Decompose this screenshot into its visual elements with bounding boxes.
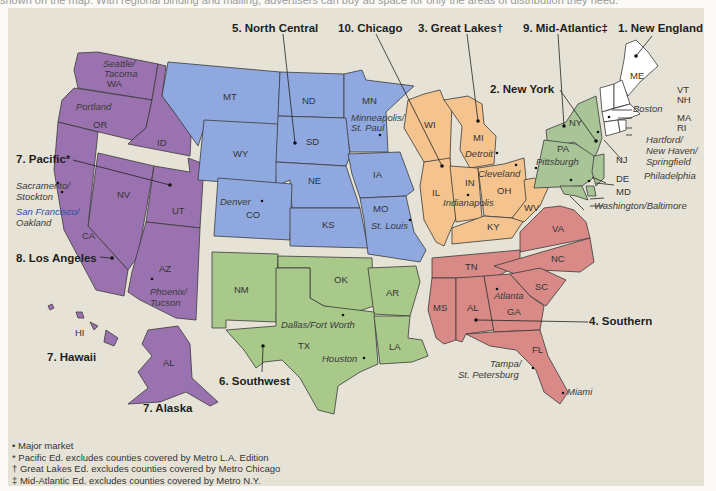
region-label-southern: 4. Southern xyxy=(589,315,652,327)
label-va: VA xyxy=(552,223,565,234)
label-fl: FL xyxy=(532,344,543,355)
region-label-great-lakes: 3. Great Lakes† xyxy=(418,22,503,34)
label-ri: RI xyxy=(677,122,687,133)
label-il: IL xyxy=(432,187,440,198)
label-in: IN xyxy=(465,177,475,188)
city-stlouis: St. Louis xyxy=(371,220,408,231)
city-phoenix-1: Phoenix/ xyxy=(150,286,188,297)
label-ca: CA xyxy=(82,230,96,241)
map-legend: • Major market * Pacific Ed. excludes co… xyxy=(12,440,280,486)
label-ks: KS xyxy=(322,219,335,230)
region-label-alaska: 7. Alaska xyxy=(143,402,193,414)
label-ak: AL xyxy=(163,357,175,368)
label-nh: NH xyxy=(677,94,691,105)
city-sacramento-1: Sacramento/ xyxy=(16,180,71,191)
label-wy: WY xyxy=(233,148,249,159)
legend-item-mid-atlantic-note: ‡ Mid-Atlantic Ed. excludes counties cov… xyxy=(12,475,280,487)
state-de xyxy=(586,186,596,196)
label-al: AL xyxy=(467,302,479,313)
city-washington: Washington/Baltimore xyxy=(594,200,687,211)
regional-editions-map: WA OR ID NV UT CA AZ HI AL MT ND MN WY S… xyxy=(0,0,716,491)
city-atlanta: Atlanta xyxy=(493,290,524,301)
label-wv: WV xyxy=(524,202,540,213)
label-ar: AR xyxy=(386,287,399,298)
label-id: ID xyxy=(157,137,167,148)
state-hi xyxy=(48,304,118,346)
city-portland: Portland xyxy=(76,101,112,112)
label-or: OR xyxy=(93,119,107,130)
city-seattle-2: Tacoma xyxy=(104,68,137,79)
city-cleveland: Cleveland xyxy=(478,168,521,179)
city-hartford-1: Hartford/ xyxy=(646,134,684,145)
city-dallas: Dallas/Fort Worth xyxy=(281,319,355,330)
region-label-southwest: 6. Southwest xyxy=(219,375,290,387)
label-md: MD xyxy=(616,186,631,197)
city-boston: Boston xyxy=(633,103,663,114)
label-de: DE xyxy=(616,173,629,184)
label-mi: MI xyxy=(473,132,484,143)
state-vt xyxy=(600,84,614,112)
label-ne: NE xyxy=(308,175,321,186)
city-denver: Denver xyxy=(220,196,251,207)
region-southwest[interactable] xyxy=(212,252,428,414)
city-pittsburgh: Pittsburgh xyxy=(536,156,579,167)
label-sc: SC xyxy=(535,281,548,292)
region-label-hawaii: 7. Hawaii xyxy=(47,351,96,363)
label-mo: MO xyxy=(373,203,388,214)
region-label-new-england: 1. New England xyxy=(618,22,703,34)
region-mid-atlantic[interactable] xyxy=(534,96,604,200)
label-nm: NM xyxy=(234,284,249,295)
state-mn xyxy=(344,70,414,152)
city-tampa-1: Tampa/ xyxy=(490,358,523,369)
label-oh: OH xyxy=(497,185,511,196)
label-nj: NJ xyxy=(616,154,628,165)
label-tn: TN xyxy=(465,261,478,272)
label-nv: NV xyxy=(117,189,131,200)
label-nd: ND xyxy=(302,95,316,106)
city-sacramento-2: Stockton xyxy=(16,191,53,202)
city-minneapolis-2: St. Paul xyxy=(351,122,385,133)
label-tx: TX xyxy=(298,340,311,351)
legend-item-major-market: • Major market xyxy=(12,440,280,452)
state-ct xyxy=(604,120,620,136)
legend-item-pacific-note: * Pacific Ed. excludes counties covered … xyxy=(12,452,280,464)
city-miami: Miami xyxy=(567,386,593,397)
region-great-lakes[interactable] xyxy=(404,90,548,246)
label-hi: HI xyxy=(75,327,85,338)
state-me xyxy=(620,40,658,96)
region-label-pacific: 7. Pacific* xyxy=(16,153,71,165)
city-hartford-3: Springfield xyxy=(646,156,692,167)
label-ky: KY xyxy=(487,221,500,232)
city-philadelphia: Philadelphia xyxy=(644,170,696,181)
label-ny: NY xyxy=(569,117,583,128)
state-ut xyxy=(146,158,204,228)
city-indianapolis: Indianapolis xyxy=(443,197,494,208)
city-hartford-2: New Haven/ xyxy=(646,145,699,156)
region-label-chicago: 10. Chicago xyxy=(338,22,403,34)
label-az: AZ xyxy=(159,263,171,274)
label-ms: MS xyxy=(433,302,447,313)
region-new-england[interactable] xyxy=(600,40,658,136)
state-md xyxy=(560,186,588,200)
label-ga: GA xyxy=(507,306,521,317)
label-ut: UT xyxy=(172,205,185,216)
label-wi: WI xyxy=(424,119,436,130)
region-label-north-central: 5. North Central xyxy=(232,22,318,34)
label-sd: SD xyxy=(306,136,319,147)
label-pa: PA xyxy=(557,143,570,154)
label-me: ME xyxy=(630,70,644,81)
label-ia: IA xyxy=(373,169,383,180)
city-detroit: Detroit xyxy=(465,148,493,159)
label-wa: WA xyxy=(107,78,123,89)
label-mt: MT xyxy=(223,91,237,102)
label-ok: OK xyxy=(334,274,348,285)
label-nc: NC xyxy=(551,253,565,264)
city-sf-1: San Francisco/ xyxy=(16,206,81,217)
region-north-central[interactable] xyxy=(162,62,426,262)
legend-item-great-lakes-note: † Great Lakes Ed. excludes counties cove… xyxy=(12,463,280,475)
state-la xyxy=(374,316,428,364)
label-mn: MN xyxy=(362,95,377,106)
label-co: CO xyxy=(246,209,260,220)
city-sf-2: Oakland xyxy=(16,217,52,228)
region-label-new-york: 2. New York xyxy=(490,83,555,95)
